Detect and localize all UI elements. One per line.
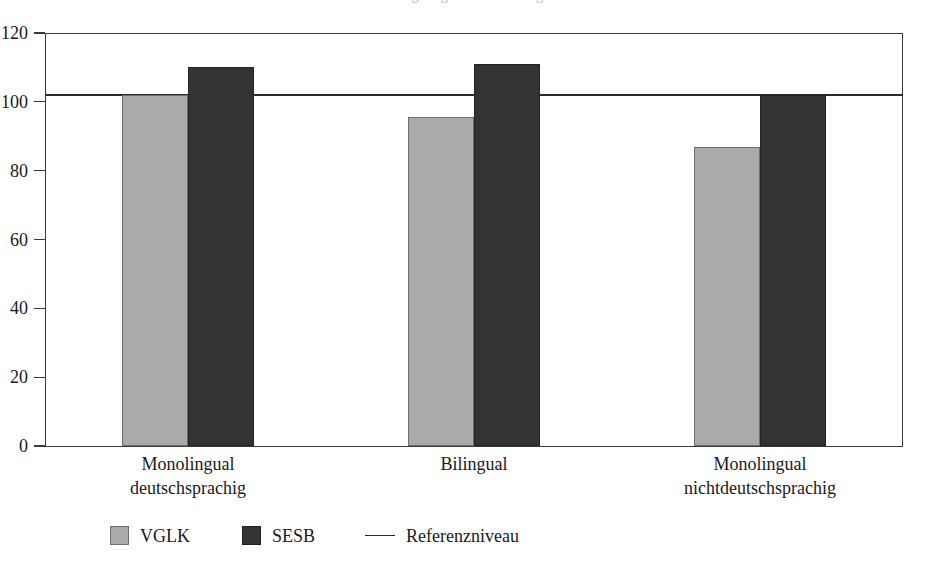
legend-swatch-vglk-icon xyxy=(110,526,129,545)
y-axis-tick xyxy=(34,445,45,446)
x-axis-label-line-1: Monolingual xyxy=(610,452,910,476)
y-axis-tick-label: 100 xyxy=(0,93,28,111)
y-axis-tick-label: 0 xyxy=(0,437,28,455)
legend-item-referenzniveau: Referenzniveau xyxy=(365,527,519,545)
chart-title-clipped: Abbildung: Ergebnisse im Vergleich xyxy=(0,0,927,11)
chart-title-text: Abbildung: Ergebnisse im Vergleich xyxy=(0,0,927,4)
legend-label-vglk: VGLK xyxy=(140,527,190,545)
y-axis-tick-label: 40 xyxy=(0,299,28,317)
legend-label-referenzniveau: Referenzniveau xyxy=(406,527,519,545)
bar-chart-figure: Abbildung: Ergebnisse im Vergleich 02040… xyxy=(0,0,927,585)
bar-sesb-group-2 xyxy=(474,64,540,446)
legend-item-sesb: SESB xyxy=(242,526,315,545)
y-axis-tick-label: 80 xyxy=(0,162,28,180)
y-axis-tick xyxy=(34,170,45,171)
legend-line-icon xyxy=(365,535,395,537)
chart-legend: VGLK SESB Referenzniveau xyxy=(110,526,519,545)
y-axis-tick-label: 20 xyxy=(0,368,28,386)
x-axis-label-line-1: Bilingual xyxy=(324,452,624,476)
x-axis-label-line-2: deutschsprachig xyxy=(38,476,338,500)
x-axis-label-group-1: Monolingualdeutschsprachig xyxy=(38,452,338,500)
x-axis-label-line-2: nichtdeutschsprachig xyxy=(610,476,910,500)
y-axis-tick xyxy=(34,32,45,33)
y-axis-tick xyxy=(34,308,45,309)
bar-sesb-group-3 xyxy=(760,95,826,446)
bar-sesb-group-1 xyxy=(188,67,254,446)
x-axis-label-group-2: Bilingual xyxy=(324,452,624,476)
x-axis-label-group-3: Monolingualnichtdeutschsprachig xyxy=(610,452,910,500)
y-axis-tick xyxy=(34,101,45,102)
legend-label-sesb: SESB xyxy=(272,527,315,545)
y-axis-tick-label: 60 xyxy=(0,231,28,249)
y-axis-tick xyxy=(34,377,45,378)
y-axis-tick-label: 120 xyxy=(0,24,28,42)
x-axis-label-line-1: Monolingual xyxy=(38,452,338,476)
y-axis-tick xyxy=(34,239,45,240)
legend-swatch-sesb-icon xyxy=(242,526,261,545)
bar-vglk-group-1 xyxy=(122,95,188,446)
x-axis-line xyxy=(45,446,903,447)
bar-vglk-group-2 xyxy=(408,117,474,446)
legend-item-vglk: VGLK xyxy=(110,526,190,545)
bar-vglk-group-3 xyxy=(694,147,760,446)
bars-layer xyxy=(45,33,903,446)
